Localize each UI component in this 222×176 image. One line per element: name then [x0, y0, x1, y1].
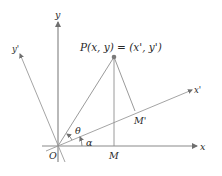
y-prime-axis-label: y'	[11, 44, 19, 54]
diagram-canvas: P(x, y) = (x', y') y x x' y' O M M' θ α	[0, 0, 222, 176]
x-prime-axis	[46, 90, 192, 151]
angle-alpha-label: α	[86, 137, 93, 148]
x-axis-label: x	[200, 141, 206, 152]
origin-label: O	[49, 150, 57, 161]
foot-m-prime-label: M'	[133, 115, 146, 126]
foot-m-label: M	[108, 150, 119, 161]
point-p	[112, 55, 117, 60]
angle-alpha-arc	[80, 137, 82, 146]
angle-theta-label: θ	[75, 125, 81, 136]
segment-pm-prime	[114, 57, 135, 111]
segment-op	[58, 57, 114, 146]
x-prime-axis-label: x'	[194, 85, 201, 95]
rotation-diagram: P(x, y) = (x', y') y x x' y' O M M' θ α	[0, 0, 222, 176]
angle-theta-arc	[67, 134, 72, 140]
point-p-label: P(x, y) = (x', y')	[79, 41, 162, 53]
y-axis-label: y	[54, 9, 61, 20]
